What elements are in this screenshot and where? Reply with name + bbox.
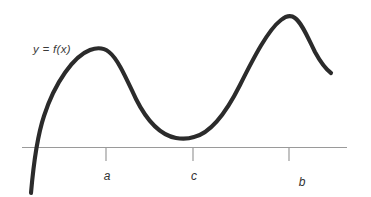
function-graph-figure: y = f(x) a c b <box>0 0 371 197</box>
graph-canvas: y = f(x) a c b <box>0 0 371 197</box>
tick-label-a: a <box>104 169 111 183</box>
curve-label: y = f(x) <box>32 43 71 55</box>
tick-label-c: c <box>191 169 197 183</box>
function-curve <box>31 16 331 193</box>
tick-label-b: b <box>299 175 306 189</box>
